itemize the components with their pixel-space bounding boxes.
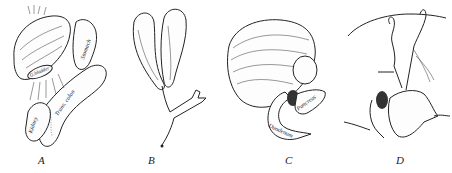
panel-b: B [112, 0, 222, 173]
panel-letter-d: D [396, 154, 404, 166]
panel-d-drawing [330, 0, 452, 173]
panel-d: D [330, 0, 452, 173]
panel-letter-a: A [38, 154, 45, 166]
anatomical-figure: Stomach Trans. colon Kidney G.bladder A … [0, 0, 452, 173]
panel-a-drawing [0, 0, 115, 173]
panel-letter-b: B [148, 154, 155, 166]
panel-c-drawing [215, 0, 335, 173]
panel-a: Stomach Trans. colon Kidney G.bladder A [0, 0, 115, 173]
panel-letter-c: C [285, 154, 292, 166]
panel-c: Pancreas Duodenum C [215, 0, 335, 173]
panel-b-drawing [112, 0, 222, 173]
